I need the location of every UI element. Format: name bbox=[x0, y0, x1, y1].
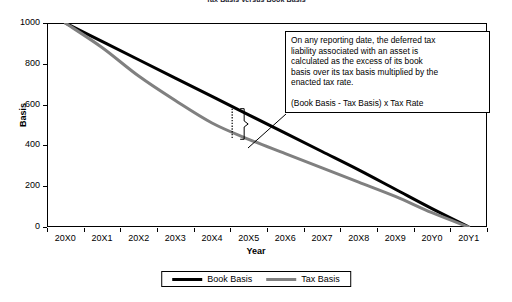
chart-legend: Book Basis Tax Basis bbox=[161, 271, 351, 287]
x-axis-label: Year bbox=[0, 246, 512, 256]
x-tick-mark bbox=[414, 228, 415, 232]
chart-title: Tax Basis versus Book Basis bbox=[0, 0, 512, 3]
x-tick-mark bbox=[120, 228, 121, 232]
x-tick-mark bbox=[267, 228, 268, 232]
x-tick-mark bbox=[487, 228, 488, 232]
callout-line-5: enacted tax rate. bbox=[291, 77, 485, 88]
legend-item-tax-basis: Tax Basis bbox=[266, 274, 340, 284]
x-tick-mark bbox=[377, 228, 378, 232]
callout-line-2: liability associated with an asset is bbox=[291, 46, 485, 57]
deferred-tax-callout: On any reporting date, the deferred tax … bbox=[285, 31, 490, 113]
x-tick-mark bbox=[304, 228, 305, 232]
x-tick-mark bbox=[47, 228, 48, 232]
chart-container: Tax Basis versus Book Basis Basis 020040… bbox=[0, 0, 512, 302]
y-axis-label: Basis bbox=[18, 85, 28, 145]
legend-label-book-basis: Book Basis bbox=[207, 274, 252, 284]
callout-formula: (Book Basis - Tax Basis) x Tax Rate bbox=[291, 98, 485, 109]
legend-swatch-book-basis bbox=[172, 278, 202, 281]
legend-swatch-tax-basis bbox=[266, 278, 296, 281]
callout-line-4: basis over its tax basis multiplied by t… bbox=[291, 67, 485, 78]
y-tick-label: 800 bbox=[0, 59, 40, 68]
x-tick-label: 20Y1 bbox=[447, 233, 491, 243]
x-tick-mark bbox=[84, 228, 85, 232]
y-tick-label: 600 bbox=[0, 100, 40, 109]
callout-line-1: On any reporting date, the deferred tax bbox=[291, 35, 485, 46]
legend-item-book-basis: Book Basis bbox=[172, 274, 252, 284]
y-tick-label: 0 bbox=[0, 222, 40, 231]
x-tick-mark bbox=[450, 228, 451, 232]
x-tick-mark bbox=[157, 228, 158, 232]
y-tick-label: 200 bbox=[0, 181, 40, 190]
x-tick-mark bbox=[230, 228, 231, 232]
y-tick-label: 400 bbox=[0, 140, 40, 149]
x-tick-mark bbox=[340, 228, 341, 232]
callout-line-3: calculated as the excess of its book bbox=[291, 56, 485, 67]
x-tick-mark bbox=[194, 228, 195, 232]
y-tick-label: 1000 bbox=[0, 18, 40, 27]
legend-label-tax-basis: Tax Basis bbox=[301, 274, 340, 284]
